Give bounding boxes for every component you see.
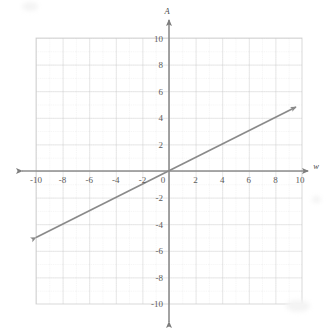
y-tick--4: -4 <box>156 220 164 230</box>
x-tick--10: -10 <box>30 175 42 185</box>
y-tick-2: 2 <box>159 140 164 150</box>
x-tick--6: -6 <box>85 175 93 185</box>
origin-tick-0: 0 <box>161 175 166 185</box>
x-axis-label: w <box>313 161 319 171</box>
x-tick-2: 2 <box>193 175 198 185</box>
x-tick--8: -8 <box>59 175 67 185</box>
coordinate-plane-figure: -10 -8 -6 -4 -2 0 2 4 6 8 10 10 8 6 4 2 … <box>0 0 327 330</box>
y-tick--2: -2 <box>156 193 164 203</box>
x-tick-6: 6 <box>247 175 252 185</box>
y-tick--6: -6 <box>156 246 164 256</box>
y-tick-4: 4 <box>159 113 164 123</box>
x-tick--2: -2 <box>139 175 147 185</box>
y-tick-10: 10 <box>154 34 164 44</box>
y-axis-label: A <box>163 6 170 16</box>
coordinate-grid-svg: -10 -8 -6 -4 -2 0 2 4 6 8 10 10 8 6 4 2 … <box>0 0 327 330</box>
y-tick--10: -10 <box>151 299 163 309</box>
y-tick--8: -8 <box>156 273 164 283</box>
x-tick-10: 10 <box>296 175 306 185</box>
y-tick-6: 6 <box>159 87 164 97</box>
x-tick-4: 4 <box>220 175 225 185</box>
y-tick-8: 8 <box>159 60 164 70</box>
x-tick-8: 8 <box>273 175 278 185</box>
x-tick--4: -4 <box>112 175 120 185</box>
